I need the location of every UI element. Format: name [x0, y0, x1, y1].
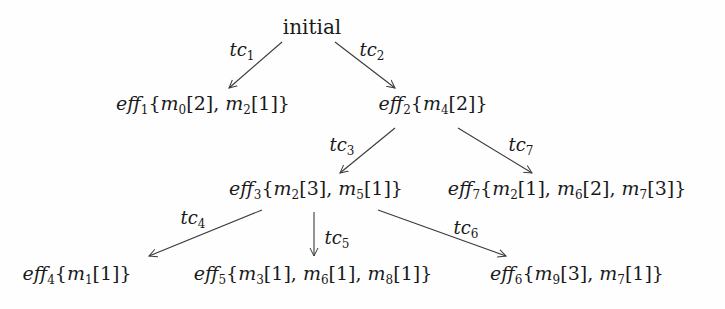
node-initial-label: initial: [283, 15, 341, 39]
edge-label-tc3: tc3: [330, 136, 355, 154]
node-initial: initial: [283, 17, 341, 37]
effect-tree-diagram: initial tc1 tc2 tc3 tc7 tc4 tc5 tc6 eff1…: [0, 0, 725, 309]
edge-tc6-arrow: [378, 210, 506, 256]
node-eff4: eff4{m1[1]}: [22, 264, 131, 283]
edge-label-tc4: tc4: [181, 209, 206, 227]
node-eff7: eff7{m2[1], m6[2], m7[3]}: [448, 179, 687, 198]
node-eff5: eff5{m3[1], m6[1], m8[1]}: [194, 264, 433, 283]
edge-label-tc1: tc1: [230, 41, 255, 59]
node-eff1: eff1{m0[2], m2[1]}: [116, 94, 290, 113]
node-eff3: eff3{m2[3], m5[1]}: [229, 179, 403, 198]
node-eff6: eff6{m9[3], m7[1]}: [490, 264, 664, 283]
edge-label-tc5: tc5: [325, 229, 350, 247]
edge-label-tc7: tc7: [509, 136, 534, 154]
edge-label-tc2: tc2: [360, 41, 385, 59]
node-eff2: eff2{m4[2]}: [378, 94, 487, 113]
edge-label-tc6: tc6: [454, 219, 479, 237]
